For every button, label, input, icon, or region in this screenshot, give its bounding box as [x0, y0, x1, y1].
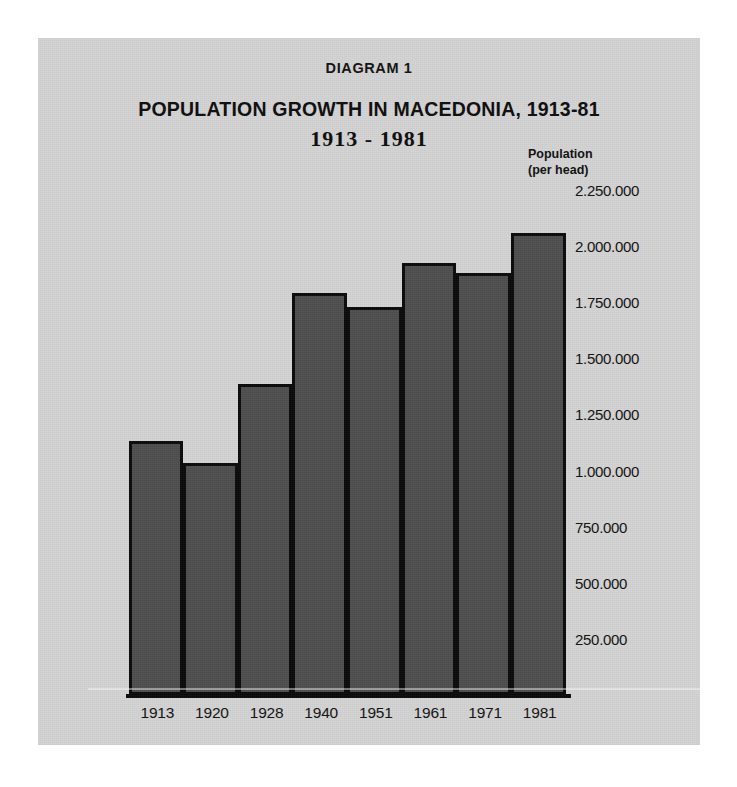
x-axis-tick-labels: 19131920192819401951196119711981 [130, 695, 567, 722]
bar-1951 [347, 307, 402, 695]
y-tick-label: 1.250.000 [575, 406, 639, 423]
y-tick-label: 1.750.000 [575, 294, 639, 311]
bar-column [294, 190, 349, 695]
x-tick-label: 1971 [458, 695, 513, 722]
chart-title: POPULATION GROWTH IN MACEDONIA, 1913-81 [38, 98, 700, 121]
bar-1981 [511, 233, 566, 695]
y-axis-caption-line2: (per head) [528, 162, 678, 178]
y-tick-label: 1.000.000 [575, 462, 639, 479]
y-tick-label: 250.000 [575, 630, 627, 647]
x-tick-label: 1940 [294, 695, 349, 722]
bar-column [239, 190, 294, 695]
bar-1971 [456, 273, 511, 695]
y-tick-label: 500.000 [575, 574, 627, 591]
y-tick-label: 2.000.000 [575, 238, 639, 255]
x-tick-label: 1928 [239, 695, 294, 722]
bar-column [130, 190, 185, 695]
x-tick-label: 1920 [185, 695, 240, 722]
x-tick-label: 1951 [349, 695, 404, 722]
y-tick-label: 1.500.000 [575, 350, 639, 367]
y-axis-caption: Population (per head) [528, 146, 678, 178]
bar-chart-plot-area: 2.250.0002.000.0001.750.0001.500.0001.25… [130, 190, 567, 695]
bar-1920 [183, 463, 238, 695]
y-tick-label: 750.000 [575, 518, 627, 535]
bar-1961 [402, 263, 457, 695]
bar-column [458, 190, 513, 695]
diagram-label: DIAGRAM 1 [38, 60, 700, 76]
x-tick-label: 1913 [130, 695, 185, 722]
scanned-page-sheet: DIAGRAM 1 POPULATION GROWTH IN MACEDONIA… [38, 38, 700, 745]
bar-column [403, 190, 458, 695]
bar-series [130, 190, 567, 695]
bar-column [512, 190, 567, 695]
x-tick-label: 1961 [403, 695, 458, 722]
y-axis-caption-line1: Population [528, 146, 678, 162]
y-tick-label: 2.250.000 [575, 182, 639, 199]
bar-1940 [292, 293, 347, 695]
bar-1913 [129, 441, 184, 695]
bar-column [349, 190, 404, 695]
x-tick-label: 1981 [512, 695, 567, 722]
bar-column [185, 190, 240, 695]
bar-1928 [238, 384, 293, 695]
